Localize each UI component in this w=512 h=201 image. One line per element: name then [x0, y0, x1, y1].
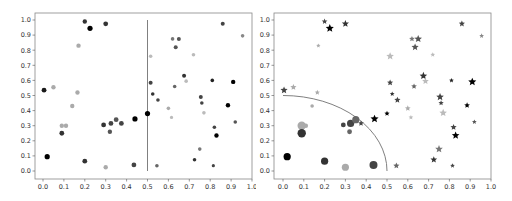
- circle-marker: [173, 85, 177, 89]
- x-tick-label: 0.2: [80, 183, 90, 191]
- circle-marker: [241, 34, 245, 38]
- circle-marker: [70, 104, 74, 108]
- y-tick-label: 0.9: [21, 31, 31, 39]
- circle-marker: [145, 111, 150, 116]
- circle-marker: [304, 124, 308, 128]
- left-scatter-panel: 0.00.10.20.30.40.50.60.70.80.91.00.00.10…: [0, 0, 256, 201]
- y-tick-label: 0.7: [21, 62, 31, 70]
- circle-marker: [42, 88, 47, 93]
- circle-marker: [151, 92, 155, 96]
- x-tick-label: 0.7: [184, 183, 194, 191]
- circle-marker: [108, 130, 112, 134]
- x-tick-label: 0.1: [299, 183, 309, 191]
- circle-marker: [149, 81, 153, 85]
- x-tick-label: 0.6: [403, 183, 413, 191]
- y-tick-label: 0.2: [260, 137, 270, 145]
- x-tick-label: 0.7: [423, 183, 433, 191]
- circle-marker: [174, 45, 178, 49]
- right-scatter-plot: 0.00.10.20.30.40.50.60.70.80.91.00.00.10…: [256, 0, 512, 201]
- circle-marker: [369, 161, 377, 169]
- circle-marker: [298, 129, 306, 137]
- circle-marker: [82, 159, 87, 164]
- x-tick-label: 0.8: [444, 183, 454, 191]
- circle-marker: [226, 103, 230, 107]
- y-tick-label: 0.3: [21, 122, 31, 130]
- y-tick-label: 0.5: [260, 92, 270, 100]
- x-tick-label: 0.5: [142, 183, 152, 191]
- x-tick-label: 0.2: [319, 183, 329, 191]
- x-tick-label: 0.3: [340, 183, 350, 191]
- x-tick-label: 0.3: [101, 183, 111, 191]
- y-tick-label: 0.3: [260, 122, 270, 130]
- y-tick-label: 0.6: [260, 77, 270, 85]
- circle-marker: [182, 74, 186, 78]
- x-tick-label: 0.9: [465, 183, 475, 191]
- circle-marker: [155, 164, 159, 168]
- x-tick-label: 0.0: [38, 183, 48, 191]
- circle-marker: [212, 164, 215, 167]
- x-tick-label: 0.6: [163, 183, 173, 191]
- y-tick-label: 0.0: [260, 167, 270, 175]
- circle-marker: [101, 123, 106, 128]
- x-tick-label: 0.4: [121, 183, 131, 191]
- circle-marker: [64, 124, 68, 128]
- circle-marker: [347, 129, 352, 134]
- x-tick-label: 0.1: [59, 183, 69, 191]
- circle-marker: [202, 111, 206, 115]
- circle-marker: [75, 90, 79, 94]
- circle-marker: [221, 22, 225, 26]
- circle-marker: [167, 107, 171, 111]
- y-tick-label: 0.6: [21, 77, 31, 85]
- x-tick-label: 0.5: [382, 183, 392, 191]
- circle-marker: [45, 154, 50, 159]
- circle-marker: [231, 80, 235, 84]
- circle-marker: [59, 131, 64, 136]
- circle-marker: [184, 79, 188, 83]
- y-tick-label: 0.7: [260, 62, 270, 70]
- circle-marker: [87, 26, 92, 31]
- circle-marker: [156, 98, 160, 102]
- circle-marker: [51, 85, 55, 89]
- circle-marker: [210, 79, 214, 83]
- x-tick-label: 1.0: [486, 183, 496, 191]
- left-scatter-plot: 0.00.10.20.30.40.50.60.70.80.91.00.00.10…: [0, 0, 256, 201]
- circle-marker: [200, 101, 204, 105]
- circle-marker: [83, 19, 87, 23]
- y-tick-label: 0.2: [21, 137, 31, 145]
- circle-marker: [284, 153, 291, 160]
- circle-marker: [114, 117, 119, 122]
- circle-marker: [192, 53, 196, 57]
- y-tick-label: 0.9: [260, 31, 270, 39]
- x-tick-label: 0.8: [205, 183, 215, 191]
- x-tick-label: 0.0: [278, 183, 288, 191]
- circle-marker: [109, 121, 114, 126]
- plot-frame: [35, 13, 252, 179]
- y-tick-label: 0.1: [21, 152, 31, 160]
- x-tick-label: 1.0: [247, 183, 256, 191]
- y-tick-label: 1.0: [21, 16, 31, 24]
- circle-marker: [177, 37, 181, 41]
- circle-marker: [119, 121, 124, 126]
- circle-marker: [103, 21, 108, 26]
- x-tick-label: 0.9: [226, 183, 236, 191]
- circle-marker: [310, 104, 314, 108]
- circle-marker: [76, 43, 80, 47]
- circle-marker: [171, 37, 175, 41]
- circle-marker: [193, 158, 197, 162]
- circle-marker: [214, 133, 218, 137]
- circle-marker: [341, 123, 346, 128]
- circle-marker: [149, 54, 153, 58]
- y-tick-label: 0.0: [21, 167, 31, 175]
- y-tick-label: 0.1: [260, 152, 270, 160]
- y-tick-label: 0.8: [21, 47, 31, 55]
- x-tick-label: 0.4: [361, 183, 371, 191]
- y-tick-label: 0.4: [260, 107, 270, 115]
- circle-marker: [352, 116, 359, 123]
- circle-marker: [321, 158, 328, 165]
- right-scatter-panel: 0.00.10.20.30.40.50.60.70.80.91.00.00.10…: [256, 0, 512, 201]
- circle-marker: [60, 124, 64, 128]
- circle-marker: [342, 164, 349, 171]
- y-tick-label: 0.5: [21, 92, 31, 100]
- circle-marker: [198, 147, 202, 151]
- circle-marker: [233, 120, 237, 124]
